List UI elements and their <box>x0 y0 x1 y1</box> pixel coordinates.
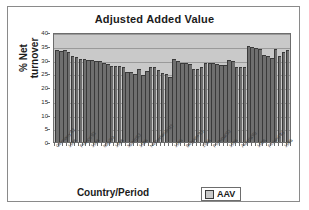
y-tick-mark <box>47 88 50 89</box>
y-tick-mark <box>47 74 50 75</box>
legend: AAV <box>201 187 241 201</box>
y-axis-ticks: 0510152025303540 <box>30 33 50 143</box>
chart-title: Adjusted Added Value <box>8 13 301 25</box>
legend-label-aav: AAV <box>217 189 235 199</box>
x-axis-tick-labels: Germany'931996France'931996Italy'931996S… <box>53 145 291 185</box>
y-tick-mark <box>47 61 50 62</box>
bar <box>286 50 290 142</box>
y-tick-mark <box>47 143 50 144</box>
y-tick-mark <box>47 47 50 48</box>
y-tick-mark <box>47 116 50 117</box>
y-tick-mark <box>47 33 50 34</box>
y-tick-mark <box>47 102 50 103</box>
x-axis-title: Country/Period <box>38 187 188 198</box>
chart-frame: Adjusted Added Value % Net turnover 0510… <box>7 6 300 202</box>
legend-swatch-aav <box>205 190 214 199</box>
y-tick-mark <box>47 129 50 130</box>
